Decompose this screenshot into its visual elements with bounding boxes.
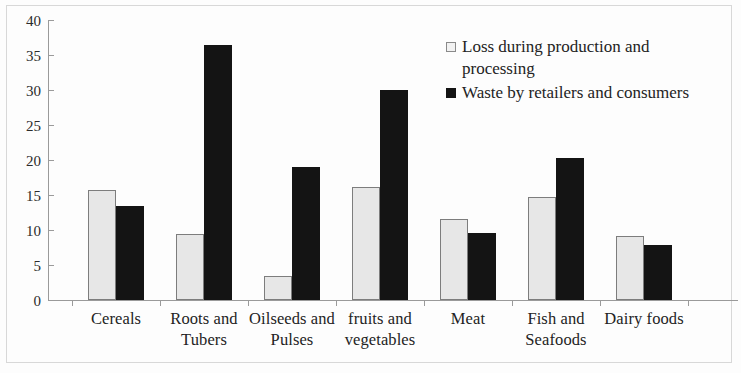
y-axis-tick-label: 5 [34,258,42,273]
y-axis-tick-label: 30 [26,83,41,98]
y-axis-tick-label: 15 [26,188,41,203]
y-axis-tick: 25 [48,125,54,126]
y-axis-tick-mark [48,20,54,21]
chart-legend: Loss during production and processing Wa… [446,36,708,105]
bar-waste [644,245,672,300]
y-axis-tick-mark [48,230,54,231]
x-axis-label: Fish and Seafoods [512,308,600,350]
y-axis-tick-label: 35 [26,48,41,63]
bar-waste [204,45,232,301]
x-axis-label: Cereals [72,308,160,329]
y-axis-tick-mark [48,90,54,91]
x-axis-label: Roots and Tubers [160,308,248,350]
legend-item-label: Loss during production and processing [462,36,708,81]
y-axis-tick-label: 10 [26,223,41,238]
y-axis-tick: 35 [48,55,54,56]
legend-item-label: Waste by retailers and consumers [462,82,689,104]
y-axis-tick-mark [48,265,54,266]
x-axis-tick-mark [424,300,425,306]
y-axis-tick-mark [48,55,54,56]
x-axis-tick-mark [512,300,513,306]
bar-waste [292,167,320,300]
bar-loss [88,190,116,300]
bar-waste [380,90,408,300]
bar-loss [264,276,292,300]
x-axis-label: Meat [424,308,512,329]
y-axis-tick: 5 [48,265,54,266]
y-axis-tick-label: 25 [26,118,41,133]
x-axis-line [48,300,738,301]
y-axis-tick-mark [48,160,54,161]
y-axis-tick: 30 [48,90,54,91]
x-axis-tick-mark [600,300,601,306]
y-axis-tick-label: 0 [34,293,42,308]
bar-loss [528,197,556,300]
bar-loss [352,187,380,300]
y-axis-tick: 0 [48,300,54,301]
y-axis-tick: 40 [48,20,54,21]
bar-waste [468,233,496,300]
bar-waste [116,206,144,301]
y-axis-tick: 15 [48,195,54,196]
bar-loss [616,236,644,300]
bar-waste [556,158,584,300]
y-axis-tick-label: 20 [26,153,41,168]
dark-square-icon [446,88,456,98]
y-axis-tick-mark [48,300,54,301]
light-square-icon [446,42,456,52]
bar-loss [176,234,204,301]
x-axis-label: Oilseeds and Pulses [248,308,336,350]
legend-item-waste: Waste by retailers and consumers [446,82,708,104]
x-axis-tick-mark [72,300,73,306]
y-axis-tick: 20 [48,160,54,161]
x-axis-tick-mark [336,300,337,306]
y-axis-tick-mark [48,125,54,126]
y-axis-tick: 10 [48,230,54,231]
x-axis-tick-mark [688,300,689,306]
y-axis-tick-mark [48,195,54,196]
x-axis-label: Dairy foods [600,308,688,329]
y-axis-tick-label: 40 [26,13,41,28]
legend-item-loss: Loss during production and processing [446,36,708,81]
bar-chart: 4035302520151050 CerealsRoots and Tubers… [0,0,741,373]
x-axis-tick-mark [160,300,161,306]
x-axis-label: fruits and vegetables [336,308,424,350]
bar-loss [440,219,468,300]
x-axis-tick-mark [248,300,249,306]
